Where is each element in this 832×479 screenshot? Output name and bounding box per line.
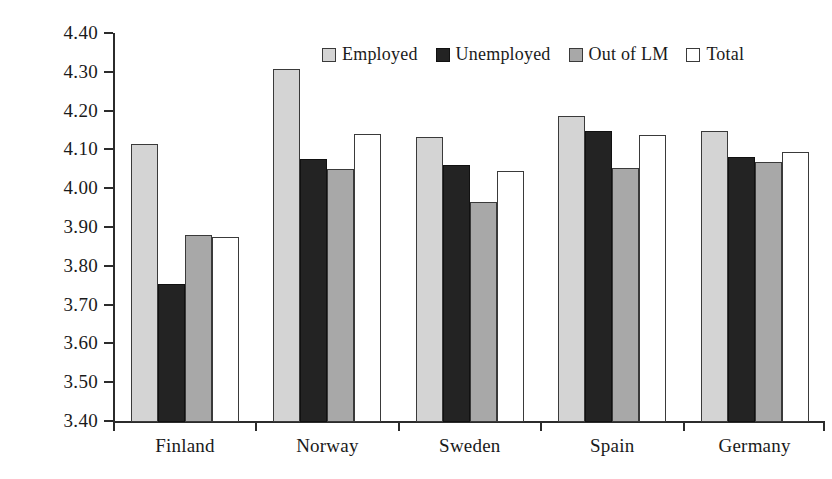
y-axis-tick-label: 3.80 [64,255,98,277]
x-axis-label-spain: Spain [590,435,634,457]
x-axis-tick [540,421,542,431]
legend-swatch-unemployed [436,48,450,62]
legend-entry-employed: Employed [322,44,418,65]
y-axis-tick: 3.40 [104,420,113,422]
chart-legend: EmployedUnemployedOut of LMTotal [322,44,744,65]
bar-sweden-employed [416,137,443,422]
x-axis-label-finland: Finland [155,435,214,457]
y-axis-tick-label: 3.50 [64,371,98,393]
y-axis-tick: 4.00 [104,187,113,189]
x-axis-tick [823,421,825,431]
x-axis-tick [398,421,400,431]
y-axis-tick-label: 3.60 [64,332,98,354]
bar-finland-outoflm [185,235,212,422]
bar-spain-outoflm [612,168,639,422]
bar-spain-employed [558,116,585,422]
bar-norway-total [354,134,381,422]
bar-sweden-total [497,171,524,422]
bar-germany-employed [701,131,728,422]
bar-finland-employed [131,144,158,422]
legend-entry-unemployed: Unemployed [436,44,551,65]
bar-sweden-outoflm [470,202,497,422]
y-axis-tick-label: 3.40 [64,410,98,432]
x-axis-label-norway: Norway [296,435,358,457]
legend-label-employed: Employed [342,44,418,65]
bar-norway-outoflm [327,169,354,422]
legend-label-total: Total [706,44,744,65]
y-axis-tick-label: 4.00 [64,177,98,199]
y-axis-tick: 3.60 [104,342,113,344]
y-axis-tick-label: 4.20 [64,100,98,122]
bar-germany-total [782,152,809,422]
bar-norway-employed [273,69,300,422]
legend-swatch-total [686,48,700,62]
bar-spain-total [639,135,666,422]
bar-germany-outoflm [755,162,782,422]
legend-label-outoflm: Out of LM [589,44,669,65]
y-axis-tick-label: 4.10 [64,138,98,160]
legend-swatch-employed [322,48,336,62]
bar-sweden-unemployed [443,165,470,422]
y-axis-tick: 4.40 [104,32,113,34]
bar-finland-unemployed [158,284,185,422]
x-axis-tick [113,421,115,431]
x-axis-tick [255,421,257,431]
y-axis-tick: 3.80 [104,265,113,267]
x-axis-label-sweden: Sweden [439,435,500,457]
y-axis-tick: 3.90 [104,226,113,228]
bar-norway-unemployed [300,159,327,422]
y-axis-tick-label: 4.40 [64,22,98,44]
bar-chart: Commitment score 3.403.503.603.703.803.9… [0,0,832,479]
y-axis-tick: 4.20 [104,110,113,112]
y-axis-tick: 4.10 [104,148,113,150]
y-axis-tick: 4.30 [104,71,113,73]
legend-entry-total: Total [686,44,744,65]
y-axis-tick-label: 3.70 [64,294,98,316]
x-axis-tick [683,421,685,431]
y-axis-tick: 3.70 [104,304,113,306]
x-axis-label-germany: Germany [719,435,791,457]
legend-entry-outoflm: Out of LM [569,44,669,65]
y-axis-tick-label: 3.90 [64,216,98,238]
plot-area: 3.403.503.603.703.803.904.004.104.204.30… [113,33,825,421]
bar-spain-unemployed [585,131,612,422]
y-axis-tick-label: 4.30 [64,61,98,83]
legend-label-unemployed: Unemployed [456,44,551,65]
legend-swatch-outoflm [569,48,583,62]
y-axis-line [113,33,115,422]
bar-finland-total [212,237,239,422]
y-axis-tick: 3.50 [104,381,113,383]
bar-germany-unemployed [728,157,755,422]
